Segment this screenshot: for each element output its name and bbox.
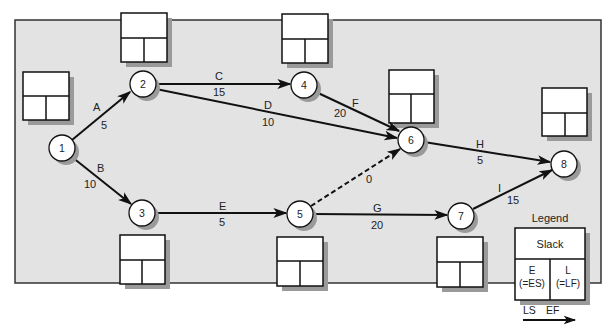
legend-e-label: E (529, 265, 536, 276)
slack-box-node-1 (23, 72, 74, 125)
node-3-label: 3 (139, 207, 145, 219)
slack-box-node-5 (277, 237, 328, 291)
slack-box-node-6 (389, 70, 439, 128)
activity-h-label: H (476, 138, 484, 150)
node-5-label: 5 (297, 208, 303, 220)
node-6-label: 6 (408, 134, 414, 146)
node-2-label: 2 (140, 78, 146, 90)
activity-i-label: I (498, 182, 501, 194)
activity-g-label: G (373, 202, 382, 214)
legend-l-sub: (=LF) (556, 278, 580, 289)
slack-box-node-2 (121, 13, 172, 67)
activity-g-arrow (313, 214, 447, 215)
node-4-label: 4 (301, 79, 307, 91)
activity-i-duration: 15 (507, 194, 519, 206)
activity-d-duration: 10 (262, 116, 274, 128)
slack-box-node-8 (542, 88, 592, 141)
dummy-activity-duration: 0 (366, 173, 372, 185)
activity-a-label: A (93, 101, 101, 113)
activity-f-label: F (352, 97, 359, 109)
node-1-label: 1 (59, 142, 65, 154)
activity-e-label: E (219, 200, 226, 212)
slack-box-node-4 (282, 14, 333, 68)
activity-f-duration: 20 (334, 107, 346, 119)
legend-ef: EF (546, 304, 559, 316)
legend-title: Legend (532, 212, 569, 224)
activity-b-label: B (97, 162, 104, 174)
legend-e-sub: (=ES) (519, 278, 545, 289)
legend: Legend Slack E (=ES) L (=LF) LS EF (515, 212, 590, 320)
activity-d-label: D (264, 99, 272, 111)
activity-g-duration: 20 (371, 219, 383, 231)
activity-a-duration: 5 (101, 119, 107, 131)
legend-l-label: L (565, 265, 571, 276)
activity-h-duration: 5 (477, 154, 483, 166)
activity-c-label: C (215, 70, 223, 82)
activity-b-duration: 10 (84, 178, 96, 190)
legend-slack: Slack (537, 238, 564, 250)
activity-c-duration: 15 (213, 86, 225, 98)
network-diagram: A 5 B 10 C 15 D 10 E 5 F 20 0 G 20 H 5 I… (0, 0, 613, 326)
legend-ls: LS (523, 304, 536, 316)
slack-box-node-3 (120, 235, 170, 289)
activity-e-duration: 5 (219, 216, 225, 228)
node-7-label: 7 (458, 210, 464, 222)
node-8-label: 8 (561, 158, 567, 170)
slack-box-node-7 (437, 237, 488, 292)
